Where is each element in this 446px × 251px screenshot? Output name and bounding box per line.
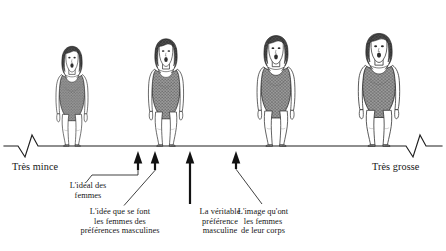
marker-arrows [134,151,241,204]
arrow-ideal [134,151,143,170]
scale-axis [4,135,442,157]
silhouette-2 [148,39,183,147]
arrow-idee-preferences [151,151,160,170]
caption-idee-preferences-masculines: L'idée que se font les femmes des préfér… [52,207,188,236]
figure-canvas: Très mince Très grosse L'idéal des femme… [0,0,446,251]
arrow-veritable-preference [186,151,195,204]
axis-label-right: Très grosse [372,161,419,172]
caption-image-corps: L'image qu'ont les femmes de leur corps [222,207,304,236]
silhouette-3 [257,36,295,147]
arrow-image-corps [232,151,241,169]
leader-image-corps [236,169,262,204]
axis-label-left: Très mince [12,161,58,172]
caption-ideal-des-femmes: L'idéal des femmes [46,181,130,200]
silhouette-1 [56,46,88,146]
silhouette-4 [358,33,399,146]
